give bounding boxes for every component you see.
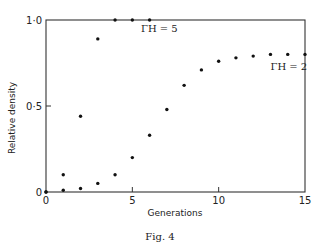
data-point	[252, 54, 255, 57]
data-point	[286, 53, 289, 56]
data-point	[79, 115, 82, 118]
annotations: ΓH = 5ΓH = 2	[141, 23, 307, 72]
data-point	[217, 60, 220, 63]
data-point	[62, 189, 65, 192]
series-gamma-h-2	[44, 53, 306, 194]
data-point	[131, 156, 134, 159]
data-point	[44, 190, 47, 193]
data-point	[269, 53, 272, 56]
y-axis-ticks: 00·51·0	[26, 15, 51, 198]
x-axis-ticks: 051015	[43, 187, 312, 206]
data-point	[234, 56, 237, 59]
data-point	[131, 18, 134, 21]
x-tick-label: 15	[299, 195, 312, 206]
x-tick-label: 5	[129, 195, 135, 206]
data-point	[79, 187, 82, 190]
data-point	[96, 37, 99, 40]
series-annotation: ΓH = 5	[141, 23, 178, 34]
data-point	[165, 108, 168, 111]
data-point	[62, 173, 65, 176]
plot-frame	[46, 20, 305, 192]
y-axis-title: Relative density	[7, 81, 17, 154]
chart: 051015 00·51·0 ΓH = 5ΓH = 2 Generations …	[0, 0, 321, 251]
data-point	[96, 182, 99, 185]
data-point	[148, 18, 151, 21]
x-tick-label: 0	[43, 195, 49, 206]
data-point	[148, 134, 151, 137]
y-tick-label: 0	[36, 187, 42, 198]
y-tick-label: 0·5	[26, 101, 42, 112]
data-point	[182, 84, 185, 87]
data-points	[44, 18, 306, 193]
data-point	[303, 53, 306, 56]
data-point	[113, 173, 116, 176]
y-tick-label: 1·0	[26, 15, 42, 26]
series-annotation: ΓH = 2	[270, 61, 307, 72]
figure-caption: Fig. 4	[145, 231, 174, 242]
data-point	[113, 18, 116, 21]
x-tick-label: 10	[212, 195, 225, 206]
data-point	[200, 68, 203, 71]
series-gamma-h-5	[44, 18, 151, 193]
x-axis-title: Generations	[148, 208, 203, 218]
